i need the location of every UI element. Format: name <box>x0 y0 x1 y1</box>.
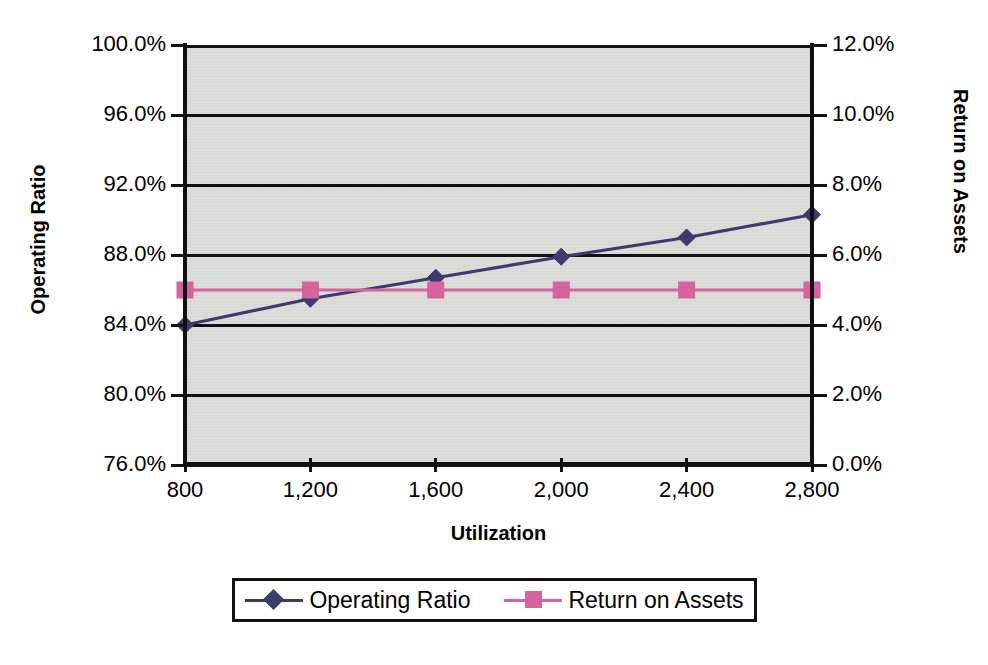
x-axis-tick-label: 2,000 <box>501 477 621 503</box>
x-axis-title: Utilization <box>185 522 812 545</box>
left-axis-title: Operating Ratio <box>27 140 50 340</box>
legend-marker-square-icon <box>504 589 562 611</box>
chart-container: 100.0%96.0%92.0%88.0%84.0%80.0%76.0% 12.… <box>0 0 988 665</box>
legend-item-return-on-assets[interactable]: Return on Assets <box>504 587 743 614</box>
x-axis-tick-label: 1,600 <box>376 477 496 503</box>
x-axis-tick-label: 1,200 <box>250 477 370 503</box>
chart-legend: Operating Ratio Return on Assets <box>232 578 757 622</box>
x-axis-tick-labels: 8001,2001,6002,0002,4002,800 <box>0 0 988 665</box>
legend-item-operating-ratio[interactable]: Operating Ratio <box>245 587 470 614</box>
legend-marker-diamond-icon <box>245 589 303 611</box>
legend-label-return-on-assets: Return on Assets <box>568 587 743 614</box>
right-axis-title: Return on Assets <box>949 72 972 272</box>
x-axis-tick-label: 800 <box>125 477 245 503</box>
x-axis-tick-label: 2,400 <box>627 477 747 503</box>
legend-label-operating-ratio: Operating Ratio <box>309 587 470 614</box>
x-axis-tick-label: 2,800 <box>752 477 872 503</box>
